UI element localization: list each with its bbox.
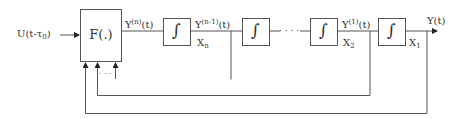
integrator-icon-4: ∫: [387, 22, 396, 39]
state-sub: n: [204, 42, 209, 50]
state-label-x1: X1: [409, 38, 421, 50]
input-label-end: ): [47, 28, 51, 39]
block-diagram: U(t-τ0) F(.) ∫ ∫ ∫ ∫ Y(n)(t) Y(n-1)(t) X…: [0, 0, 467, 119]
state-label-x2: X2: [343, 38, 355, 50]
feedback-ellipsis: · · ·: [99, 70, 112, 78]
integrator-icon-2: ∫: [251, 22, 260, 39]
chain-ellipsis: · · · ·: [279, 27, 299, 36]
signal-tail: (t): [142, 19, 154, 30]
input-label-main: U(t-τ: [17, 28, 42, 39]
signal-base: Y: [125, 19, 132, 30]
signal-label-yn: Y(n)(t): [125, 19, 153, 30]
signal-base: Y: [342, 19, 349, 30]
signal-tail: (t): [359, 19, 371, 30]
signal-label-y1: Y(1)(t): [342, 19, 370, 30]
signal-sup: (n): [132, 18, 142, 26]
output-label-y: Y(t): [427, 16, 445, 26]
input-label: U(t-τ0): [17, 29, 51, 41]
integrator-icon-1: ∫: [172, 22, 181, 39]
signal-sup: (1): [349, 18, 359, 26]
state-sub: 1: [416, 42, 420, 50]
integrator-icon-3: ∫: [319, 22, 328, 39]
function-block-label: F(.): [80, 28, 122, 41]
state-sub: 2: [350, 42, 354, 50]
signal-sup: (n-1): [202, 18, 219, 26]
diagram-lines: [0, 0, 467, 119]
state-label-xn: Xn: [197, 38, 209, 50]
signal-tail: (t): [218, 19, 230, 30]
signal-label-yn1: Y(n-1)(t): [195, 19, 230, 30]
signal-base: Y: [195, 19, 202, 30]
